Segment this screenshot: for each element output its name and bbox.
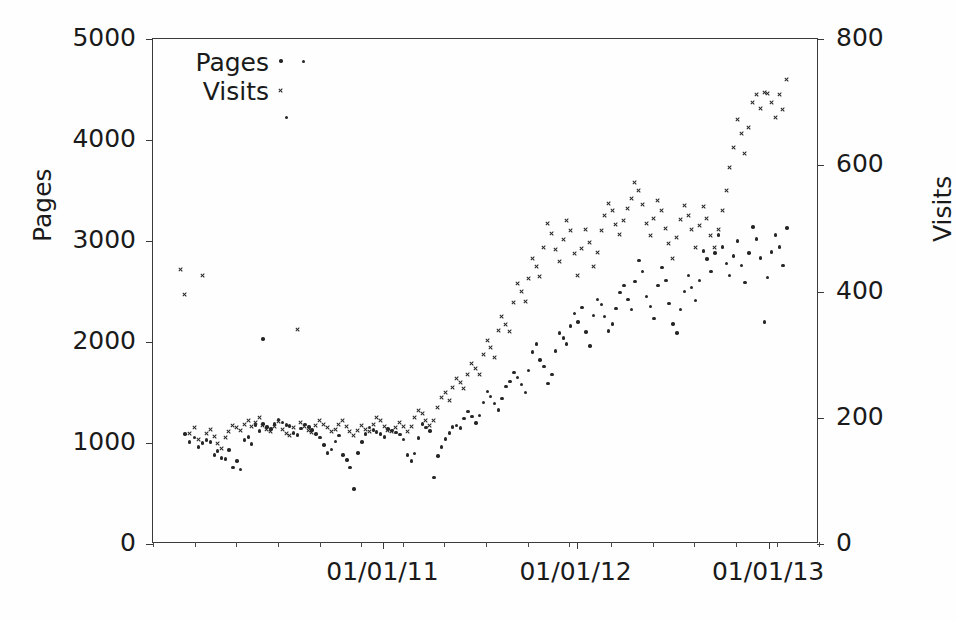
data-point-visits (625, 206, 630, 211)
data-point-pages (683, 290, 686, 293)
data-point-pages (292, 431, 295, 434)
data-point-visits (682, 203, 687, 208)
data-point-pages (432, 476, 435, 479)
data-point-visits (492, 355, 497, 360)
data-point-visits (219, 446, 224, 451)
data-point-pages (417, 436, 420, 439)
data-point-pages (356, 451, 359, 454)
data-point-visits (613, 222, 618, 227)
data-point-pages (546, 382, 549, 385)
data-point-pages (440, 445, 443, 448)
data-point-visits (246, 418, 251, 423)
data-point-visits (534, 264, 539, 269)
data-point-pages (406, 453, 409, 456)
data-point-visits (595, 250, 600, 255)
data-point-pages (600, 303, 603, 306)
data-point-visits (196, 437, 201, 442)
data-point-pages-outliers (261, 337, 264, 340)
x-tick-major (577, 542, 578, 549)
data-point-visits (743, 151, 748, 156)
data-point-pages (375, 430, 378, 433)
data-point-pages (763, 320, 766, 323)
data-point-visits (253, 420, 258, 425)
scatter-chart-figure: Pages Visits Pages Visits 01000200030004… (0, 0, 957, 621)
data-point-pages (766, 276, 769, 279)
data-point-pages (489, 395, 492, 398)
data-point-pages (694, 299, 697, 302)
data-point-pages (675, 331, 678, 334)
data-point-visits (439, 395, 444, 400)
data-point-visits (640, 202, 645, 207)
data-point-visits (530, 256, 535, 261)
data-point-visits (394, 425, 399, 430)
data-point-visits (187, 431, 192, 436)
data-point-visits (667, 241, 672, 246)
data-point-visits (356, 428, 361, 433)
data-point-pages (770, 250, 773, 253)
data-point-visits (629, 196, 634, 201)
data-point-pages (611, 322, 614, 325)
data-point-visits (515, 281, 520, 286)
data-point-visits (568, 228, 573, 233)
data-point-visits (352, 433, 357, 438)
y-tick-label-left: 3000 (16, 227, 136, 252)
data-point-pages (565, 342, 568, 345)
data-point-visits (553, 247, 558, 252)
data-point-visits (208, 427, 213, 432)
data-point-visits (633, 180, 638, 185)
data-point-pages (209, 440, 212, 443)
data-point-visits (754, 92, 759, 97)
data-point-pages (322, 443, 325, 446)
data-point-pages (508, 380, 511, 383)
data-point-pages (444, 437, 447, 440)
data-point-visits (291, 425, 296, 430)
data-point-pages (562, 336, 565, 339)
data-point-pages (705, 257, 708, 260)
chart-legend: Pages Visits (181, 49, 321, 107)
data-point-pages (649, 305, 652, 308)
data-point-visits (485, 338, 490, 343)
data-point-pages (664, 279, 667, 282)
y-tick-left (146, 140, 153, 141)
data-point-visits (675, 235, 680, 240)
data-point-pages (348, 466, 351, 469)
data-point-visits (572, 251, 577, 256)
y-tick-label-left: 4000 (16, 126, 136, 151)
data-point-visits (519, 289, 524, 294)
data-point-pages-outliers (285, 116, 288, 119)
data-point-visits (602, 213, 607, 218)
data-point-visits (549, 231, 554, 236)
x-tick-label: 01/01/13 (678, 559, 858, 584)
data-point-pages (243, 438, 246, 441)
data-point-pages (383, 435, 386, 438)
data-point-visits (739, 131, 744, 136)
x-tick-minor (694, 542, 695, 547)
data-point-pages (527, 369, 530, 372)
x-tick-label: 01/01/12 (486, 559, 666, 584)
data-point-visits (591, 264, 596, 269)
data-point-pages (188, 440, 191, 443)
data-point-pages (466, 410, 469, 413)
data-point-visits (659, 208, 664, 213)
data-point-visits (781, 107, 786, 112)
data-point-pages (504, 385, 507, 388)
data-point-pages (455, 424, 458, 427)
data-point-visits (409, 424, 414, 429)
data-point-pages (493, 402, 496, 405)
data-point-visits (428, 423, 433, 428)
data-point-pages (717, 233, 720, 236)
data-point-visits (257, 415, 262, 420)
data-point-pages (459, 426, 462, 429)
x-tick-minor (278, 542, 279, 547)
data-point-pages (341, 453, 344, 456)
data-point-visits (587, 240, 592, 245)
data-point-visits (621, 218, 626, 223)
data-point-pages (470, 415, 473, 418)
data-point-visits (371, 422, 376, 427)
legend-entry-pages: Pages (181, 49, 321, 78)
data-point-pages (428, 429, 431, 432)
data-point-visits (481, 352, 486, 357)
x-tick-major (769, 542, 770, 549)
data-point-pages (227, 448, 230, 451)
x-tick-minor (320, 542, 321, 547)
